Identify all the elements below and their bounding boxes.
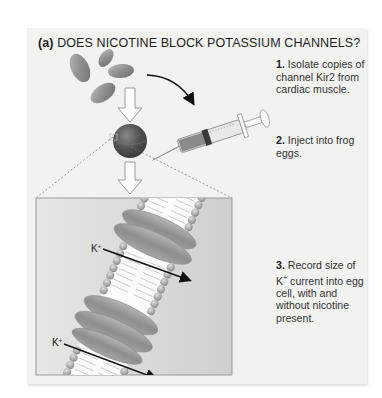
- step-1: 1. Isolate copies of channel Kir2 from c…: [276, 58, 366, 96]
- step-2: 2. Inject into frog eggs.: [276, 134, 366, 159]
- step-1-number: 1.: [276, 58, 285, 70]
- step-2-text: Inject into frog eggs.: [276, 134, 354, 159]
- step-3: 3. Record size of K+ current into egg ce…: [276, 259, 366, 325]
- zoom-line-left: [36, 137, 113, 198]
- curved-arrow-icon: [147, 75, 193, 103]
- channel-protein-blobs: [66, 46, 135, 107]
- syringe-icon: [147, 106, 272, 167]
- figure-panel: (a) DOES NICOTINE BLOCK POTASSIUM CHANNE…: [27, 28, 367, 384]
- step-2-number: 2.: [276, 134, 285, 146]
- step-3-number: 3.: [276, 259, 285, 271]
- down-arrow-icon: [118, 162, 142, 194]
- step-1-text: Isolate copies of channel Kir2 from card…: [276, 58, 364, 95]
- step-3-text-after: current into egg cell, with and without …: [276, 274, 364, 324]
- down-arrow-icon: [118, 88, 142, 122]
